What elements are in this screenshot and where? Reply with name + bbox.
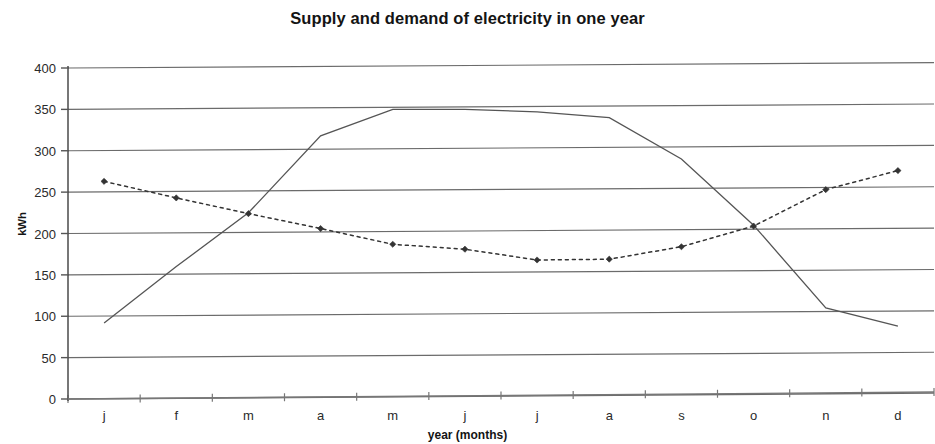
gridlines bbox=[68, 63, 934, 399]
chart-container: Supply and demand of electricity in one … bbox=[0, 0, 935, 444]
series-markers-demand bbox=[101, 168, 901, 264]
series-line-supply bbox=[104, 109, 898, 326]
plot-area bbox=[0, 0, 935, 444]
series-line-demand bbox=[104, 171, 898, 260]
